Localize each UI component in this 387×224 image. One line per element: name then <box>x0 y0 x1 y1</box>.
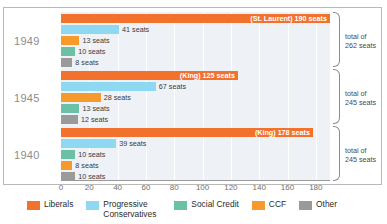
total-label-line2: 245 seats <box>345 155 376 164</box>
total-bracket <box>333 12 340 67</box>
axis-tick-label: 160 <box>281 183 294 192</box>
legend-swatch-icon <box>299 201 312 210</box>
legend-swatch-icon <box>86 201 99 210</box>
bar-1940-social-credit[interactable] <box>61 150 75 159</box>
bar-value-label: (King) 125 seats <box>180 71 235 80</box>
legend-item-other[interactable]: Other <box>299 200 337 210</box>
legend-item-social-credit[interactable]: Social Credit <box>174 200 238 210</box>
bar-1949-social-credit[interactable] <box>61 47 75 56</box>
total-bracket <box>333 126 340 181</box>
bar-value-label: 13 seats <box>82 104 109 113</box>
total-label-line2: 262 seats <box>345 41 376 50</box>
legend-swatch-icon <box>252 201 265 210</box>
bar-1945-other[interactable] <box>61 115 78 124</box>
legend-item-progressive-conservatives[interactable]: Progressive Conservatives <box>86 200 161 219</box>
bar-value-label: 39 seats <box>119 139 146 148</box>
legend-label: Progressive Conservatives <box>103 200 161 219</box>
gridline <box>203 12 204 180</box>
axis-tick-label: 40 <box>113 183 122 192</box>
bar-value-label: 67 seats <box>159 82 186 91</box>
total-annotation: total of245 seats <box>345 89 376 107</box>
gridline <box>146 12 147 180</box>
gridline <box>259 12 260 180</box>
bar-1940-progressive-conservatives[interactable] <box>61 139 116 148</box>
gridline <box>231 12 232 180</box>
legend-item-liberals[interactable]: Liberals <box>27 200 73 210</box>
bar-value-label: 10 seats <box>78 47 105 56</box>
bar-1945-social-credit[interactable] <box>61 104 79 113</box>
bar-value-label: 8 seats <box>75 161 98 170</box>
bar-value-label: (King) 178 seats <box>255 128 310 137</box>
axis-tick-label: 120 <box>224 183 237 192</box>
axis-tick-label: 0 <box>59 183 63 192</box>
year-label-1949: 1949 <box>14 35 40 47</box>
total-label-line2: 245 seats <box>345 98 376 107</box>
chart-root: (St. Laurent) 190 seats41 seats13 seats1… <box>0 0 387 224</box>
bar-1940-ccf[interactable] <box>61 161 72 170</box>
bar-value-label: 41 seats <box>122 25 149 34</box>
total-annotation: total of245 seats <box>345 146 376 164</box>
axis-tick-label: 180 <box>309 183 322 192</box>
gridline <box>316 12 317 180</box>
total-label-line1: total of <box>345 146 376 155</box>
bar-1949-progressive-conservatives[interactable] <box>61 25 119 34</box>
bar-value-label: 13 seats <box>82 36 109 45</box>
axis-tick-label: 80 <box>170 183 179 192</box>
axis-tick-label: 100 <box>196 183 209 192</box>
legend-swatch-icon <box>27 201 40 210</box>
total-label-line1: total of <box>345 89 376 98</box>
legend-swatch-icon <box>174 201 187 210</box>
gridline <box>174 12 175 180</box>
axis-tick-label: 20 <box>85 183 94 192</box>
bar-value-label: 12 seats <box>81 115 108 124</box>
gridline <box>288 12 289 180</box>
bar-value-label: (St. Laurent) 190 seats <box>250 14 327 23</box>
legend-item-ccf[interactable]: CCF <box>252 200 286 210</box>
year-label-1940: 1940 <box>14 149 40 161</box>
bar-1949-other[interactable] <box>61 58 72 67</box>
axis-tick-label: 60 <box>141 183 150 192</box>
total-bracket <box>333 69 340 124</box>
legend-label: Other <box>316 200 337 210</box>
total-annotation: total of262 seats <box>345 32 376 50</box>
legend-label: Social Credit <box>191 200 238 210</box>
chart-legend: LiberalsProgressive ConservativesSocial … <box>27 200 350 219</box>
x-axis-line <box>61 180 330 181</box>
axis-tick-label: 140 <box>253 183 266 192</box>
legend-label: CCF <box>269 200 286 210</box>
bar-value-label: 10 seats <box>78 150 105 159</box>
bar-1945-progressive-conservatives[interactable] <box>61 82 156 91</box>
bar-1945-ccf[interactable] <box>61 93 101 102</box>
bar-1949-ccf[interactable] <box>61 36 79 45</box>
year-label-1945: 1945 <box>14 92 40 104</box>
bar-value-label: 28 seats <box>104 93 131 102</box>
legend-label: Liberals <box>44 200 73 210</box>
bar-value-label: 8 seats <box>75 58 98 67</box>
total-label-line1: total of <box>345 32 376 41</box>
